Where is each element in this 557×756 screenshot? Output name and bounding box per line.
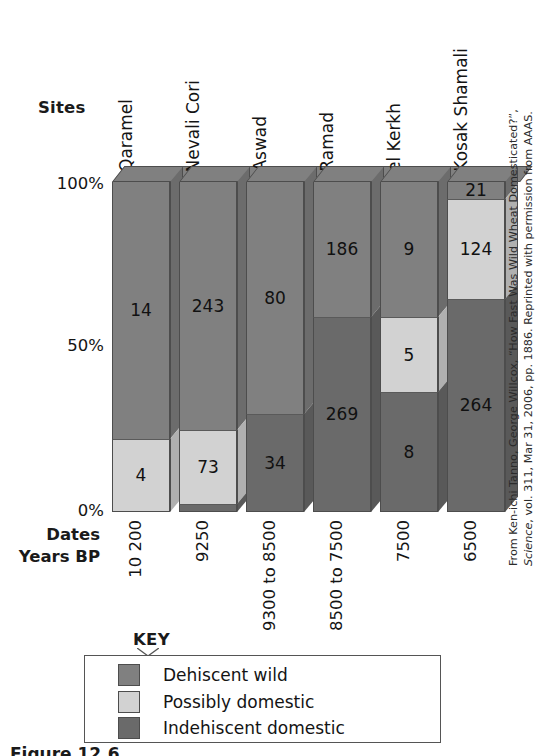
bar-segment: 80 (246, 182, 304, 414)
bar-segment-value: 264 (448, 397, 504, 414)
y-tick-100: 100% (57, 174, 104, 193)
bar-segment (179, 504, 237, 512)
bar-segment: 14 (112, 182, 170, 439)
source-credit: From Ken-ichi Tanno, George Willcox, “Ho… (506, 96, 552, 566)
date-label: 9250 (193, 520, 212, 562)
bar-kosak-shamali: 21124264 (447, 166, 505, 512)
credit-journal: Science (522, 523, 535, 566)
legend-label-dehiscent-wild: Dehiscent wild (163, 665, 288, 685)
bar-segment-value: 9 (381, 241, 437, 258)
legend-label-possibly-domestic: Possibly domestic (163, 692, 314, 712)
bar-segment-value: 14 (113, 302, 169, 319)
bar-segment: 8 (380, 392, 438, 512)
bar-segment-value: 5 (381, 346, 437, 363)
bar-segment-value: 73 (180, 459, 236, 476)
legend: Dehiscent wild Possibly domestic Indehis… (84, 655, 441, 743)
bar-aswad: 8034 (246, 166, 304, 512)
bar-segment-value: 34 (247, 454, 303, 471)
bar-nevali-cori: 24373 (179, 166, 237, 512)
bar-segment: 243 (179, 182, 237, 430)
bar-qaramel: 144 (112, 166, 170, 512)
dates-axis-label-line1: Dates (46, 524, 100, 546)
bar-segment: 9 (380, 182, 438, 317)
bar-segment: 269 (313, 317, 371, 512)
bar-segment-value: 269 (314, 406, 370, 423)
bar-top-face (246, 166, 304, 182)
credit-part-1: From Ken-ichi Tanno, George Willcox, “Ho… (507, 109, 520, 566)
bar-front-faces: 958 (380, 182, 438, 512)
credit-part-2: , vol. 311, Mar 31, 2006, pp. 1886. Repr… (522, 111, 535, 523)
bar-segment: 124 (447, 199, 505, 299)
legend-item-indehiscent-domestic: Indehiscent domestic (118, 715, 345, 741)
legend-item-dehiscent-wild: Dehiscent wild (118, 662, 288, 688)
bar-segment-value: 243 (180, 297, 236, 314)
bar-segment-value: 124 (448, 241, 504, 258)
source-credit-text: From Ken-ichi Tanno, George Willcox, “Ho… (506, 96, 557, 566)
site-label: Ramad (317, 112, 337, 172)
date-label: 6500 (461, 520, 480, 562)
bar-front-faces: 144 (112, 182, 170, 512)
site-label: Qaramel (116, 99, 136, 172)
bar-top-face (179, 166, 237, 182)
bar-segment: 21 (447, 182, 505, 199)
date-label: 7500 (394, 520, 413, 562)
bar-segment-value: 4 (113, 467, 169, 484)
y-tick-0: 0% (78, 501, 104, 520)
bar-top-face (380, 166, 438, 182)
site-label: Kosak Shamali (451, 48, 471, 172)
y-tick-50: 50% (67, 336, 104, 355)
bar-segment: 5 (380, 317, 438, 392)
legend-swatch-dehiscent-wild (118, 664, 140, 686)
bar-segment: 4 (112, 439, 170, 512)
bar-front-faces: 21124264 (447, 182, 505, 512)
bar-front-faces: 8034 (246, 182, 304, 512)
date-label: 10 200 (126, 520, 145, 578)
bar-front-faces: 186269 (313, 182, 371, 512)
bar-segment: 186 (313, 182, 371, 317)
site-label: Aswad (250, 116, 270, 172)
site-label: el Kerkh (384, 103, 404, 172)
bar-segment: 264 (447, 299, 505, 512)
legend-swatch-indehiscent-domestic (118, 717, 140, 739)
bar-segment-value: 8 (381, 443, 437, 460)
bar-segment-value: 186 (314, 241, 370, 258)
legend-label-indehiscent-domestic: Indehiscent domestic (163, 718, 345, 738)
bar-top-face (112, 166, 170, 182)
bar-ramad: 186269 (313, 166, 371, 512)
site-label: Nevali Cori (183, 80, 203, 173)
bar-el-kerkh: 958 (380, 166, 438, 512)
key-title: KEY (133, 630, 170, 649)
bar-segment: 34 (246, 414, 304, 512)
figure-caption: Figure 12.6 (10, 744, 120, 756)
legend-item-possibly-domestic: Possibly domestic (118, 689, 314, 715)
date-label: 8500 to 7500 (327, 520, 346, 631)
bar-top-face (313, 166, 371, 182)
bar-segment-value: 21 (448, 182, 504, 199)
bar-front-faces: 24373 (179, 182, 237, 512)
dates-axis-label-line2: Years BP (19, 546, 100, 568)
stacked-bar-chart: Sites 100% 50% 0% Dates Years BP Qaramel… (0, 0, 557, 620)
bar-segment-value: 80 (247, 289, 303, 306)
date-label: 9300 to 8500 (260, 520, 279, 631)
legend-swatch-possibly-domestic (118, 691, 140, 713)
bar-segment: 73 (179, 430, 237, 504)
